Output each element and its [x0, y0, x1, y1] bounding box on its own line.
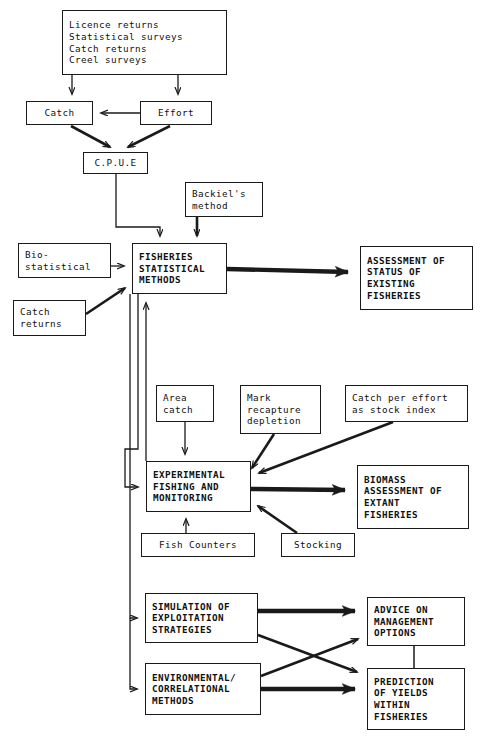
node-catch-returns-line-1: returns [20, 318, 79, 330]
edge-effort-to-cpue [128, 126, 170, 147]
node-area-catch-line-0: Area [163, 392, 207, 404]
node-assessment-status-line-1: STATUS OF [367, 266, 466, 278]
node-fish-counters[interactable]: Fish Counters [141, 533, 255, 557]
edge-experimental-fishing-to-biomass-assessment [251, 489, 345, 490]
node-sources-line-1: Statistical surveys [69, 31, 220, 43]
node-stocking[interactable]: Stocking [281, 533, 355, 557]
edge-environmental-to-advice-management [261, 639, 358, 676]
node-fisheries-methods-line-0: FISHERIES [139, 251, 220, 263]
node-mark-recapture-depletion[interactable]: Mark recapture depletion [240, 385, 321, 434]
node-prediction-yields-line-2: WITHIN [374, 699, 458, 711]
node-sources-line-0: Licence returns [69, 19, 220, 31]
node-sources-line-2: Catch returns [69, 43, 220, 55]
node-backiel-line-0: Backiel's [192, 188, 256, 200]
node-environmental-line-0: ENVIRONMENTAL/ [152, 672, 254, 684]
edge-fisheries-methods-to-simulation [130, 294, 137, 618]
node-simulation-line-0: SIMULATION OF [152, 601, 251, 613]
node-fisheries-statistical-methods[interactable]: FISHERIES STATISTICAL METHODS [132, 243, 227, 294]
edge-fisheries-methods-to-experimental-fishing [125, 294, 138, 487]
node-experimental-fishing-line-1: FISHING AND [153, 481, 244, 493]
node-mark-recapture-line-2: depletion [247, 415, 314, 427]
edge-catch-to-cpue [71, 126, 110, 147]
node-mark-recapture-line-0: Mark [247, 392, 314, 404]
node-sources[interactable]: Licence returns Statistical surveys Catc… [62, 10, 227, 75]
node-assessment-status-line-3: FISHERIES [367, 290, 466, 302]
node-experimental-fishing-and-monitoring[interactable]: EXPERIMENTAL FISHING AND MONITORING [146, 461, 251, 512]
node-effort[interactable]: Effort [140, 101, 212, 125]
node-assessment-status-line-2: EXISTING [367, 278, 466, 290]
node-cpue-label: C.P.U.E [95, 157, 137, 169]
node-environmental-line-1: CORRELATIONAL [152, 683, 254, 695]
node-advice-management-line-0: ADVICE ON [374, 604, 458, 616]
node-advice-on-management-options[interactable]: ADVICE ON MANAGEMENT OPTIONS [367, 597, 465, 646]
node-mark-recapture-line-1: recapture [247, 404, 314, 416]
node-area-catch[interactable]: Area catch [156, 385, 214, 422]
node-biomass-assessment-line-0: BIOMASS [364, 474, 462, 486]
node-assessment-status-line-0: ASSESSMENT OF [367, 255, 466, 267]
node-biomass-assessment-line-3: FISHERIES [364, 509, 462, 521]
node-fish-counters-label: Fish Counters [159, 539, 237, 551]
node-effort-label: Effort [158, 107, 194, 119]
node-prediction-yields-line-3: FISHERIES [374, 711, 458, 723]
edge-stocking-to-experimental-fishing [258, 506, 297, 533]
node-biomass-assessment-line-2: EXTANT [364, 497, 462, 509]
edge-catch-returns-to-fisheries-methods [86, 288, 125, 314]
node-catch[interactable]: Catch [26, 101, 93, 125]
node-sources-line-3: Creel surveys [69, 54, 220, 66]
node-backiel-method[interactable]: Backiel's method [185, 182, 263, 217]
edge-fisheries-methods-to-environmental [130, 618, 137, 689]
node-catch-returns-line-0: Catch [20, 306, 79, 318]
edge-fisheries-methods-to-assessment-status [227, 269, 348, 272]
edge-simulation-to-prediction-yields [258, 635, 357, 672]
node-cpue[interactable]: C.P.U.E [83, 152, 148, 174]
edge-mark-recapture-to-experimental-fishing [252, 434, 274, 468]
node-advice-management-line-2: OPTIONS [374, 627, 458, 639]
flowchart-diagram: Licence returns Statistical surveys Catc… [0, 0, 491, 737]
node-biomass-assessment[interactable]: BIOMASS ASSESSMENT OF EXTANT FISHERIES [357, 465, 469, 529]
node-fisheries-methods-line-2: METHODS [139, 274, 220, 286]
node-biostatistical-line-0: Bio- [25, 249, 104, 261]
node-fisheries-methods-line-1: STATISTICAL [139, 263, 220, 275]
node-experimental-fishing-line-2: MONITORING [153, 492, 244, 504]
node-simulation-of-exploitation-strategies[interactable]: SIMULATION OF EXPLOITATION STRATEGIES [145, 593, 258, 643]
node-environmental-line-2: METHODS [152, 695, 254, 707]
node-catch-per-effort-line-0: Catch per effort [352, 392, 461, 404]
node-biostatistical-line-1: statistical [25, 261, 104, 273]
node-environmental-correlational-methods[interactable]: ENVIRONMENTAL/ CORRELATIONAL METHODS [145, 663, 261, 715]
node-simulation-line-1: EXPLOITATION [152, 612, 251, 624]
node-biomass-assessment-line-1: ASSESSMENT OF [364, 485, 462, 497]
node-area-catch-line-1: catch [163, 404, 207, 416]
node-catch-returns[interactable]: Catch returns [13, 300, 86, 336]
node-experimental-fishing-line-0: EXPERIMENTAL [153, 469, 244, 481]
node-assessment-of-status[interactable]: ASSESSMENT OF STATUS OF EXISTING FISHERI… [360, 246, 473, 310]
node-prediction-yields-line-0: PREDICTION [374, 676, 458, 688]
node-prediction-of-yields[interactable]: PREDICTION OF YIELDS WITHIN FISHERIES [367, 668, 465, 730]
node-simulation-line-2: STRATEGIES [152, 624, 251, 636]
node-catch-label: Catch [45, 107, 75, 119]
node-catch-per-effort-stock-index[interactable]: Catch per effort as stock index [345, 385, 468, 422]
node-advice-management-line-1: MANAGEMENT [374, 616, 458, 628]
node-backiel-line-1: method [192, 200, 256, 212]
edge-cpue-to-fisheries-methods [116, 174, 160, 236]
node-biostatistical[interactable]: Bio- statistical [18, 243, 111, 278]
node-catch-per-effort-line-1: as stock index [352, 404, 461, 416]
node-stocking-label: Stocking [294, 539, 342, 551]
node-prediction-yields-line-1: OF YIELDS [374, 687, 458, 699]
